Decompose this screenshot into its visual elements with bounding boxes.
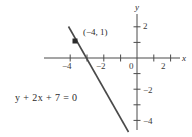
- point-annotation-label: (−4, 1): [83, 28, 108, 37]
- y-axis-label: y: [135, 3, 139, 12]
- x-tick-label-2: 2: [161, 62, 166, 71]
- equation-label: y + 2x + 7 = 0: [15, 93, 78, 103]
- point-marker: [73, 39, 78, 44]
- y-tick-label-neg2: −2: [143, 86, 153, 95]
- y-tick-label-neg4: −4: [143, 117, 153, 126]
- x-tick-label-neg2: −2: [96, 62, 106, 71]
- x-tick-label-neg4: −4: [62, 62, 72, 71]
- x-axis-label: x: [182, 54, 186, 63]
- x-tick-label-zero: 0: [129, 62, 134, 71]
- y-tick-label-2: 2: [143, 22, 148, 31]
- graph-figure: −4 −2 0 2 2 −2 −4 y x (−4, 1) y + 2x + 7…: [0, 0, 192, 137]
